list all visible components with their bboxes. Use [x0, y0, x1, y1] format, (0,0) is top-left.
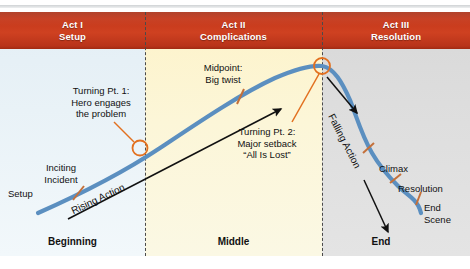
act-2-subtitle: Complications: [200, 31, 267, 43]
act-header-1: Act I Setup: [0, 12, 145, 49]
act-3-name: Act III: [383, 19, 410, 31]
act-header-2: Act II Complications: [145, 12, 322, 49]
end-scene-line2: Scene: [424, 214, 468, 226]
turning-point-2-label: Turning Pt. 2: Major setback “All Is Los…: [221, 126, 313, 161]
top-rule-divider: [0, 5, 470, 8]
resolution-label: Resolution: [398, 183, 460, 195]
story-arc-diagram: Act I Setup Act II Complications Act III…: [0, 0, 470, 269]
act-1-name: Act I: [62, 19, 83, 31]
act-3-subtitle: Resolution: [371, 31, 421, 43]
inciting-incident-line1: Inciting: [30, 162, 92, 174]
end-scene-label: End Scene: [424, 202, 468, 225]
turning-point-2-line3: “All Is Lost”: [221, 149, 313, 161]
act-header-3: Act III Resolution: [322, 12, 470, 49]
phase-label-beginning: Beginning: [0, 236, 145, 248]
phase-label-middle: Middle: [145, 236, 322, 248]
end-scene-line1: End: [424, 202, 468, 214]
turning-point-1-label: Turning Pt. 1: Hero engages the problem: [62, 85, 140, 120]
inciting-incident-line2: Incident: [30, 174, 92, 186]
act-2-name: Act II: [222, 19, 246, 31]
midpoint-line2: Big twist: [186, 74, 260, 86]
turning-point-1-line3: the problem: [62, 108, 140, 120]
midpoint-label: Midpoint: Big twist: [186, 62, 260, 85]
act2-act3-divider: [322, 12, 323, 256]
turning-point-2-line2: Major setback: [221, 138, 313, 150]
midpoint-line1: Midpoint:: [186, 62, 260, 74]
turning-point-2-line1: Turning Pt. 2:: [221, 126, 313, 138]
act-1-subtitle: Setup: [59, 31, 86, 43]
setup-label: Setup: [8, 188, 48, 200]
inciting-incident-label: Inciting Incident: [30, 162, 92, 185]
turning-point-1-line1: Turning Pt. 1:: [62, 85, 140, 97]
phase-label-end: End: [322, 236, 440, 248]
turning-point-1-line2: Hero engages: [62, 97, 140, 109]
act1-act2-divider: [145, 12, 146, 256]
climax-label: Climax: [379, 163, 425, 175]
